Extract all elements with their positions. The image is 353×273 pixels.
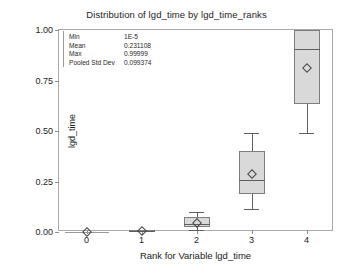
y-tick-mark: [55, 232, 59, 233]
whisker-cap-lower: [299, 133, 313, 134]
whisker-cap-lower: [189, 230, 203, 231]
stats-value: 0.99999: [124, 50, 148, 59]
stats-value: 0.099374: [124, 59, 152, 68]
chart-title: Distribution of lgd_time by lgd_time_ran…: [0, 9, 353, 20]
y-tick-mark: [55, 131, 59, 132]
x-tick-label: 1: [139, 235, 144, 245]
stats-row: Min1E-5: [69, 33, 152, 42]
plot-area: Min1E-5Mean0.231108Max0.99999Pooled Std …: [58, 29, 333, 231]
y-tick-mark: [55, 182, 59, 183]
stats-label: Mean: [69, 42, 124, 51]
whisker-cap-lower: [244, 209, 258, 210]
stats-label: Pooled Std Dev: [69, 59, 124, 68]
x-tick-label: 3: [249, 235, 254, 245]
whisker-lower: [252, 194, 253, 209]
x-tick-mark: [252, 230, 253, 234]
x-tick-mark: [197, 230, 198, 234]
y-axis-label: lgd_time: [67, 76, 77, 186]
x-tick-label: 2: [194, 235, 199, 245]
stats-row: Max0.99999: [69, 50, 152, 59]
stats-value: 0.231108: [124, 42, 151, 51]
stats-label: Min: [69, 33, 124, 42]
x-tick-mark: [307, 230, 308, 234]
x-tick-label: 4: [304, 235, 309, 245]
x-axis-label: Rank for Variable lgd_time: [58, 250, 333, 261]
boxplot-chart: Distribution of lgd_time by lgd_time_ran…: [0, 0, 353, 273]
stats-label: Max: [69, 50, 124, 59]
whisker-cap-upper: [244, 133, 258, 134]
stats-row: Mean0.231108: [69, 42, 152, 51]
stats-row: Pooled Std Dev0.099374: [69, 59, 152, 68]
whisker-upper: [252, 133, 253, 151]
y-tick-mark: [55, 81, 59, 82]
whisker-lower: [307, 104, 308, 133]
median-line: [239, 180, 265, 181]
whisker-cap-upper: [189, 212, 203, 213]
median-line: [294, 49, 320, 50]
stats-value: 1E-5: [124, 33, 138, 42]
summary-stats-box: Min1E-5Mean0.231108Max0.99999Pooled Std …: [63, 31, 152, 67]
y-tick-mark: [55, 30, 59, 31]
